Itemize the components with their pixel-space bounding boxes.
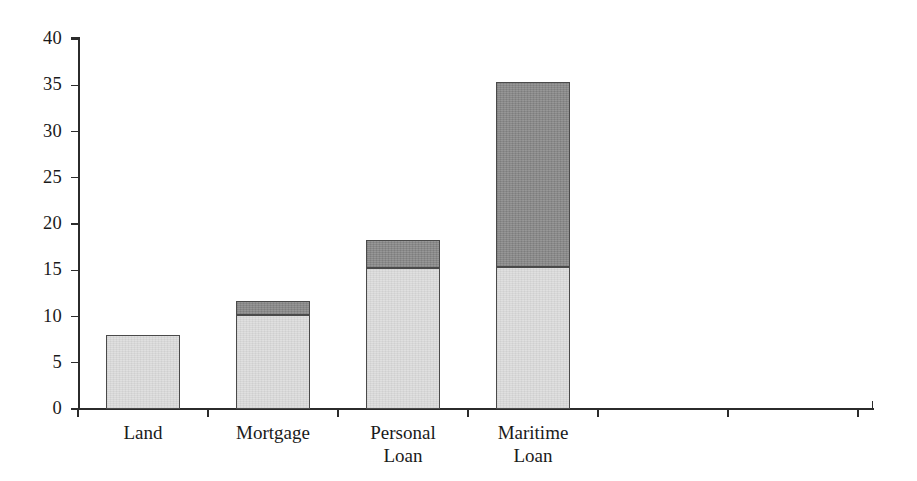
x-axis-category-label: Maritime Loan: [468, 421, 598, 467]
y-axis-tick: [71, 177, 78, 178]
stacked-bar-chart: 0510152025303540 LandMortgagePersonal Lo…: [0, 0, 917, 481]
bar-segment-light: [496, 267, 570, 409]
bar-stack: [496, 82, 570, 409]
bar-segment-dark: [496, 82, 570, 267]
x-axis-tick: [207, 409, 208, 417]
x-axis-category-label: Land: [78, 421, 208, 444]
x-axis-tick: [467, 409, 468, 417]
y-axis-tick: [71, 131, 78, 132]
y-axis-tick-label: 5: [0, 353, 62, 372]
y-axis-tick-label: 15: [0, 260, 62, 279]
y-axis-tick: [71, 316, 78, 317]
bar-segment-dark: [236, 301, 310, 315]
bar-segment-light: [106, 335, 180, 409]
y-axis-tick: [71, 362, 78, 363]
bar-stack: [366, 240, 440, 409]
y-axis-tick-label: 30: [0, 122, 62, 141]
y-axis-tick: [71, 270, 78, 271]
x-axis-tick: [857, 409, 858, 417]
bar-stack: [106, 335, 180, 409]
y-axis-tick: [71, 85, 78, 86]
y-axis-tick-label: 40: [0, 29, 62, 48]
x-axis-tick: [337, 409, 338, 417]
x-axis-tick: [77, 409, 78, 417]
bar-stack: [236, 301, 310, 409]
y-axis-tick-label: 20: [0, 214, 62, 233]
y-axis-tick-label: 0: [0, 399, 62, 418]
y-axis-tick-label: 25: [0, 168, 62, 187]
y-axis-tick-label: 35: [0, 75, 62, 94]
y-axis-tick-label: 10: [0, 307, 62, 326]
bar-segment-light: [236, 315, 310, 409]
bar-segment-light: [366, 268, 440, 409]
x-axis-line: [78, 408, 874, 410]
y-axis-tick: [71, 223, 78, 224]
y-axis-tick: [71, 38, 78, 39]
y-axis-line: [78, 37, 80, 410]
bar-segment-dark: [366, 240, 440, 269]
x-axis-tick: [597, 409, 598, 417]
x-axis-end-cap: [872, 401, 873, 410]
x-axis-category-label: Mortgage: [208, 421, 338, 444]
x-axis-category-label: Personal Loan: [338, 421, 468, 467]
x-axis-tick: [727, 409, 728, 417]
